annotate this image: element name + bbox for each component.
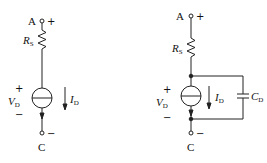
resistor-rs — [38, 30, 46, 49]
terminal-c — [189, 131, 193, 135]
rs-label: RS — [22, 34, 34, 48]
terminal-c-sign: − — [47, 128, 55, 139]
node-bottom — [189, 117, 193, 121]
vd-label: VD — [8, 95, 20, 109]
id-label: ID — [214, 91, 224, 105]
terminal-c-label: C — [187, 141, 194, 153]
terminal-a-label: A — [28, 15, 36, 27]
right-circuit — [181, 14, 249, 135]
vd-plus: + — [163, 84, 171, 95]
cd-label: CD — [251, 90, 263, 104]
resistor-rs — [187, 38, 195, 57]
terminal-c-sign: − — [196, 128, 204, 139]
circuit-diagrams: A + RS + VD − ID − C A + RS + VD — [0, 0, 267, 163]
vd-plus: + — [15, 83, 23, 94]
terminal-a — [40, 19, 44, 23]
terminal-a-sign: + — [196, 11, 204, 22]
arrow-icon — [189, 110, 193, 116]
vd-minus: − — [163, 112, 171, 123]
arrow-icon — [40, 113, 44, 119]
terminal-a — [189, 14, 193, 18]
terminal-a-label: A — [176, 10, 184, 22]
right-labels: A + RS + VD − ID CD − C — [156, 10, 263, 153]
left-circuit — [32, 19, 67, 135]
vd-label: VD — [156, 96, 168, 110]
vd-minus: − — [15, 109, 23, 120]
terminal-c-label: C — [38, 141, 45, 153]
terminal-c — [40, 131, 44, 135]
rs-label: RS — [171, 42, 183, 56]
terminal-a-sign: + — [47, 16, 55, 27]
id-label: ID — [69, 93, 79, 107]
